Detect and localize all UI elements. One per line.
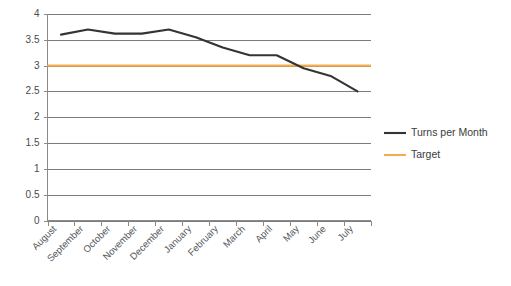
- legend-label: Turns per Month: [411, 126, 488, 138]
- y-tick-label: 3: [34, 60, 40, 71]
- line-chart: 00.511.522.533.54 AugustSeptemberOctober…: [0, 0, 511, 286]
- y-tick-label: 1.5: [26, 137, 40, 148]
- y-tick-label: 1: [34, 163, 40, 174]
- x-tick-label: June: [306, 223, 328, 245]
- y-axis-tick-labels: 00.511.522.533.54: [26, 8, 48, 226]
- x-tick-label: July: [335, 223, 355, 243]
- chart-legend: Turns per MonthTarget: [384, 126, 488, 160]
- x-tick-label: May: [281, 223, 302, 244]
- y-tick-label: 2.5: [26, 85, 40, 96]
- y-tick-label: 2: [34, 111, 40, 122]
- x-tick-label: March: [221, 223, 247, 249]
- y-tick-label: 0: [34, 215, 40, 226]
- x-axis-tick-labels: AugustSeptemberOctoberNovemberDecemberJa…: [30, 223, 355, 264]
- legend-label: Target: [411, 148, 440, 160]
- chart-container: 00.511.522.533.54 AugustSeptemberOctober…: [0, 0, 511, 286]
- series-line-turns-per-month: [61, 29, 358, 91]
- y-tick-label: 4: [34, 8, 40, 19]
- x-tick-label: February: [185, 223, 220, 258]
- y-tick-label: 3.5: [26, 34, 40, 45]
- y-tick-label: 0.5: [26, 189, 40, 200]
- x-tick-label: April: [253, 223, 274, 244]
- grid-lines: [48, 15, 372, 222]
